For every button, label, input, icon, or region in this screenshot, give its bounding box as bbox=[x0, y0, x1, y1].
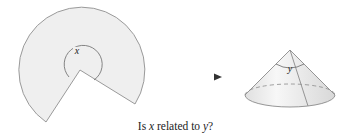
sector-shape bbox=[19, 7, 145, 122]
angle-x-label: x bbox=[74, 45, 80, 56]
transform-arrow bbox=[160, 74, 222, 81]
angle-y-label: y bbox=[287, 63, 293, 74]
caption-middle: related to bbox=[154, 120, 203, 132]
cone: y bbox=[245, 50, 335, 107]
circular-sector: x bbox=[19, 7, 145, 122]
cone-body bbox=[245, 50, 335, 107]
sector-to-cone-diagram: x y bbox=[0, 0, 351, 138]
caption: Is x related to y? bbox=[0, 120, 351, 132]
caption-suffix: ? bbox=[208, 120, 213, 132]
caption-prefix: Is bbox=[138, 120, 149, 132]
arrow-head-icon bbox=[214, 74, 222, 81]
